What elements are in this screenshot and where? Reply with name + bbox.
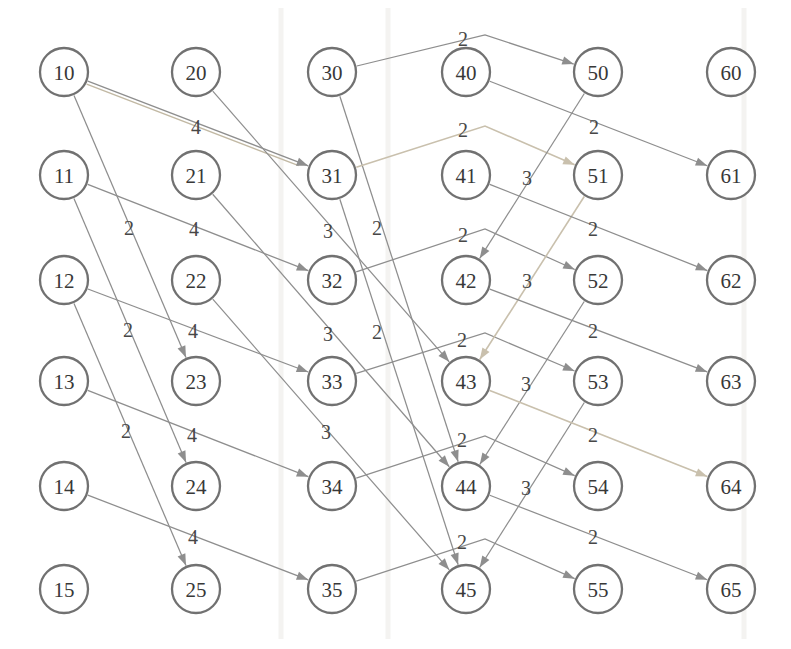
edge-12-25-arrowhead-icon <box>178 553 186 565</box>
node-43-label: 43 <box>456 370 477 394</box>
node-11-label: 11 <box>54 164 74 188</box>
edge-10-23-arrowhead-icon <box>178 345 186 357</box>
node-22-label: 22 <box>186 269 207 293</box>
node-62-label: 62 <box>721 269 742 293</box>
edge-13-34-arrowhead-icon <box>296 469 308 477</box>
node-25-label: 25 <box>186 578 207 602</box>
edge-31-45-arrowhead-icon <box>451 553 459 565</box>
node-55-label: 55 <box>588 578 609 602</box>
edge-33-53-arrowhead-icon <box>562 363 574 371</box>
node-14-label: 14 <box>54 475 76 499</box>
node-30-label: 30 <box>322 61 343 85</box>
edge-10-23-weight-label: 2 <box>124 217 134 239</box>
node-65-label: 65 <box>721 578 742 602</box>
edge-21-44-weight-label: 3 <box>323 323 333 345</box>
edge-51-43 <box>480 196 584 359</box>
edge-34-54-weight-label: 2 <box>457 429 467 451</box>
node-20-label: 20 <box>186 61 207 85</box>
node-53-label: 53 <box>588 370 609 394</box>
edge-14-35-weight-label: 4 <box>188 526 198 548</box>
node-33-label: 33 <box>322 370 343 394</box>
edge-31-45 <box>340 199 458 564</box>
node-60-label: 60 <box>721 61 742 85</box>
edge-12-33-weight-label: 4 <box>188 320 198 342</box>
edge-53-45-arrowhead-icon <box>480 556 490 568</box>
edge-34-54-arrowhead-icon <box>562 467 574 475</box>
edge-32-52-weight-label: 2 <box>458 224 468 246</box>
edge-51-43-arrowhead-icon <box>480 348 490 360</box>
edge-33-53-weight-label: 2 <box>457 329 467 351</box>
edge-53-45-weight-label: 3 <box>521 477 531 499</box>
edge-41-62-arrowhead-icon <box>695 262 707 270</box>
edge-10-31-arrowhead-icon <box>296 158 308 166</box>
edge-30-50-weight-label: 2 <box>458 28 468 50</box>
edge-12-33-arrowhead-icon <box>296 364 308 372</box>
node-52-label: 52 <box>588 269 609 293</box>
node-34-label: 34 <box>322 475 344 499</box>
node-45-label: 45 <box>456 578 477 602</box>
edge-42-63-weight-label: 2 <box>588 320 598 342</box>
edge-35-55-arrowhead-icon <box>562 570 574 578</box>
node-21-label: 21 <box>186 164 207 188</box>
graph-diagram: 4444422233322222222333322222101112131415… <box>0 0 791 649</box>
node-51-label: 51 <box>588 164 609 188</box>
edge-22-45-weight-label: 3 <box>321 421 331 443</box>
graph-canvas: 4444422233322222222333322222101112131415… <box>0 0 791 649</box>
node-32-label: 32 <box>322 269 343 293</box>
node-50-label: 50 <box>588 61 609 85</box>
edge-13-34-weight-label: 4 <box>187 424 197 446</box>
edge-40-61-weight-label: 2 <box>589 116 599 138</box>
edge-11-32-weight-label: 4 <box>189 218 199 240</box>
edge-31-45-weight-label: 2 <box>372 321 382 343</box>
edge-44-65-arrowhead-icon <box>695 572 707 580</box>
node-41-label: 41 <box>456 164 477 188</box>
edge-30-44-arrowhead-icon <box>451 450 459 462</box>
edge-52-44-weight-label: 3 <box>521 373 531 395</box>
edge-20-43-weight-label: 3 <box>323 220 333 242</box>
edge-52-44 <box>480 301 584 464</box>
node-15-label: 15 <box>54 578 75 602</box>
node-61-label: 61 <box>721 164 742 188</box>
edge-51-43-weight-label: 3 <box>522 270 532 292</box>
node-23-label: 23 <box>186 370 207 394</box>
node-63-label: 63 <box>721 370 742 394</box>
node-10-label: 10 <box>54 61 75 85</box>
edge-50-42-weight-label: 3 <box>522 167 532 189</box>
node-40-label: 40 <box>456 61 477 85</box>
edge-41-62-weight-label: 2 <box>588 218 598 240</box>
edge-30-44 <box>340 96 458 461</box>
edge-50-42 <box>480 94 585 259</box>
edge-44-65-weight-label: 2 <box>588 526 598 548</box>
node-35-label: 35 <box>322 578 343 602</box>
edge-40-61-arrowhead-icon <box>695 158 707 166</box>
edge-43-64-weight-label: 2 <box>588 424 598 446</box>
edge-31-51-weight-label: 2 <box>458 119 468 141</box>
edge-52-44-arrowhead-icon <box>480 453 490 465</box>
edge-43-64-arrowhead-icon <box>695 468 707 476</box>
edge-11-24-arrowhead-icon <box>178 450 186 462</box>
edge-11-32-arrowhead-icon <box>296 263 308 271</box>
edge-32-52-arrowhead-icon <box>563 261 575 270</box>
node-24-label: 24 <box>186 475 208 499</box>
node-12-label: 12 <box>54 269 75 293</box>
edge-14-35-arrowhead-icon <box>296 572 308 580</box>
edge-11-24-weight-label: 2 <box>123 319 133 341</box>
edge-12-25-weight-label: 2 <box>121 420 131 442</box>
node-31-label: 31 <box>322 164 343 188</box>
edge-30-50-arrowhead-icon <box>562 56 574 64</box>
edge-10-31-weight-label: 4 <box>191 116 201 138</box>
node-54-label: 54 <box>588 475 610 499</box>
edge-53-45 <box>480 403 585 568</box>
edge-30-44-weight-label: 2 <box>372 217 382 239</box>
node-44-label: 44 <box>456 475 478 499</box>
node-13-label: 13 <box>54 370 75 394</box>
node-64-label: 64 <box>721 475 743 499</box>
edge-35-55-weight-label: 2 <box>457 531 467 553</box>
edge-50-42-arrowhead-icon <box>480 247 490 259</box>
node-42-label: 42 <box>456 269 477 293</box>
edge-31-51-arrowhead-icon <box>562 156 574 164</box>
edge-42-63-arrowhead-icon <box>695 364 707 372</box>
